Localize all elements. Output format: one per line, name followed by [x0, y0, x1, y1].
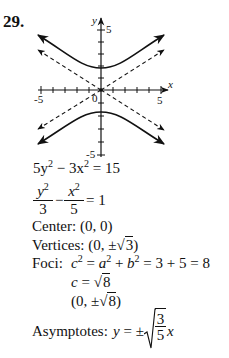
x-tick-label-5: 5 — [157, 94, 163, 106]
center-line: Center: (0, 0) — [32, 219, 112, 234]
x-axis-label: x — [168, 78, 173, 90]
y-tick-label-5: 5 — [106, 23, 112, 35]
y-axis-label: y — [92, 14, 97, 26]
asymptotes-label: Asymptotes: — [32, 324, 108, 339]
vertices-line: Vertices: (0, ±√3) — [32, 238, 138, 253]
origin-label: 0 — [92, 92, 98, 104]
asymptotes-lhs: y = ± — [113, 324, 144, 339]
foci-points: (0, ±√8) — [71, 294, 121, 309]
equals-one: = 1 — [86, 193, 106, 208]
fraction-y2-over-3: y2 3 — [33, 184, 53, 216]
minus-sign: − — [55, 193, 63, 208]
foci-c-value: c = √8 — [71, 275, 110, 290]
hyperbola-graph — [0, 0, 229, 160]
asymptotes-x: x — [167, 324, 174, 339]
x-tick-label-neg5: -5 — [34, 93, 43, 105]
fraction-3-over-5: 3 5 — [155, 312, 166, 342]
equation-general: 5y2 − 3x2 = 15 — [33, 161, 120, 177]
fraction-x2-over-5: x2 5 — [64, 184, 84, 216]
foci-equation: c2 = a2 + b2 = 3 + 5 = 8 — [71, 256, 210, 272]
foci-label: Foci: — [32, 256, 63, 271]
